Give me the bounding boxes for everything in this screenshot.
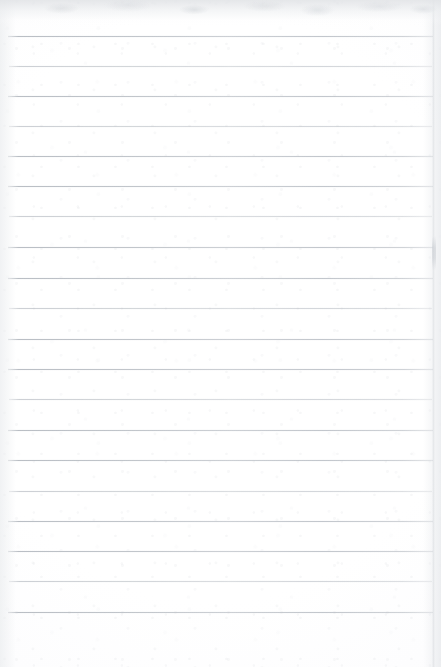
scanned-page [0,0,441,667]
paper-sheet [0,0,441,667]
